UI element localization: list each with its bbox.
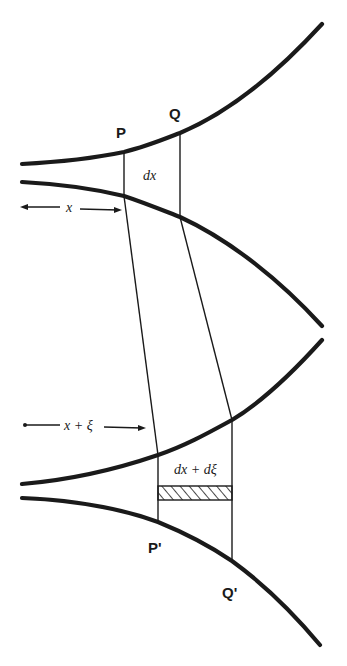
label-p-prime: P' (148, 539, 162, 556)
upper-horn-top-wall (22, 24, 322, 164)
lower-horn-top-wall (22, 340, 322, 484)
q-displacement-line (180, 217, 232, 420)
p-displacement-line (124, 196, 158, 455)
lower-horn-bottom-wall (22, 498, 320, 645)
label-x: x (65, 200, 73, 215)
label-q-prime: Q' (222, 584, 237, 601)
hatched-element-band (158, 486, 232, 500)
label-x-plus-xi: x + ξ (63, 418, 93, 433)
horn-displacement-diagram: P Q dx x P' Q' dx + dξ x + ξ (0, 0, 347, 666)
label-p: P (116, 124, 126, 141)
label-dx-plus-dxi: dx + dξ (174, 462, 217, 477)
label-dx: dx (143, 168, 157, 183)
label-q: Q (169, 105, 181, 122)
